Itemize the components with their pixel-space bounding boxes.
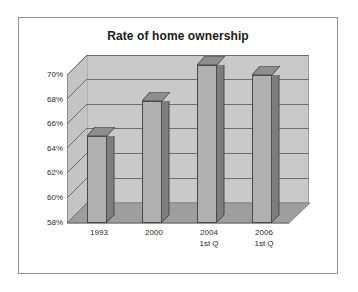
x-tick-label-2004: 2004 1st Q xyxy=(182,227,236,249)
y-tick-label-1: 68% xyxy=(29,96,63,104)
bar-2004-1st-q[interactable] xyxy=(197,55,225,223)
bar-2006-1st-q[interactable] xyxy=(252,55,280,223)
bar-1993[interactable] xyxy=(87,55,115,223)
y-tick-label-0: 70% xyxy=(29,71,63,79)
y-tick-label-4: 62% xyxy=(29,169,63,177)
y-axis: 70% 68% 66% 64% 62% 60% 58% xyxy=(17,55,63,230)
bar-front-face-2004 xyxy=(197,65,217,223)
y-tick-label-6: 58% xyxy=(29,219,63,227)
plot-area: 70% 68% 66% 64% 62% 60% 58% 1993 2000 xyxy=(39,55,319,245)
bar-side-face-1993 xyxy=(106,136,114,223)
bar-side-face-2000 xyxy=(161,101,169,223)
x-axis: 1993 2000 2004 1st Q 2006 1st Q xyxy=(39,227,319,267)
chart-frame: Rate of home ownership xyxy=(18,17,338,274)
chart-page: Rate of home ownership xyxy=(0,0,358,292)
bar-front-face-2000 xyxy=(142,101,162,223)
y-tick-label-2: 66% xyxy=(29,120,63,128)
x-tick-year-2000: 2000 xyxy=(145,228,163,237)
x-tick-label-2006: 2006 1st Q xyxy=(237,227,291,249)
y-tick-label-5: 60% xyxy=(29,194,63,202)
bar-side-face-2006 xyxy=(271,75,279,223)
x-tick-year-1993: 1993 xyxy=(90,228,108,237)
bar-top-face-2004 xyxy=(197,56,225,65)
x-tick-label-1993: 1993 xyxy=(72,227,126,238)
bar-top-face-2006 xyxy=(252,66,280,75)
bar-2000[interactable] xyxy=(142,55,170,223)
x-tick-label-2000: 2000 xyxy=(127,227,181,238)
chart-title: Rate of home ownership xyxy=(19,29,337,43)
y-tick-label-3: 64% xyxy=(29,145,63,153)
bar-side-face-2004 xyxy=(216,65,224,223)
x-tick-year-2004: 2004 xyxy=(200,228,218,237)
bar-top-face-2000 xyxy=(142,92,170,101)
bar-top-face-1993 xyxy=(87,127,115,136)
x-tick-sub-2006: 1st Q xyxy=(237,238,291,249)
x-tick-sub-2004: 1st Q xyxy=(182,238,236,249)
bar-front-face-1993 xyxy=(87,136,107,223)
x-tick-year-2006: 2006 xyxy=(255,228,273,237)
bar-front-face-2006 xyxy=(252,75,272,223)
